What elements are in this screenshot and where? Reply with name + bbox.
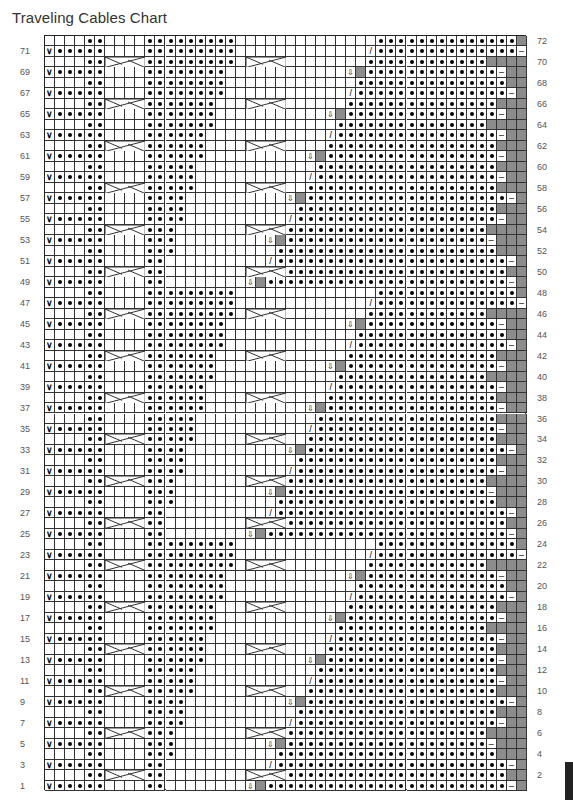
chart-cell (286, 109, 296, 119)
chart-cell (336, 214, 346, 224)
chart-cell (356, 634, 366, 644)
chart-cell (95, 361, 105, 371)
chart-cell (236, 330, 246, 340)
chart-cell (186, 141, 196, 151)
chart-cell (407, 309, 417, 319)
chart-cell (366, 781, 376, 791)
chart-cell (115, 120, 125, 130)
chart-cell (336, 487, 346, 497)
chart-cell (226, 319, 236, 329)
chart-cell (356, 393, 366, 403)
chart-cell (447, 256, 457, 266)
chart-cell (336, 781, 346, 791)
chart-cell (467, 466, 477, 476)
chart-cell (105, 476, 115, 486)
chart-cell (176, 372, 186, 382)
chart-cell (95, 634, 105, 644)
chart-cell (145, 46, 155, 56)
chart-cell (346, 130, 356, 140)
chart-cell (95, 508, 105, 518)
chart-cell (105, 288, 115, 298)
chart-cell (65, 581, 75, 591)
chart-cell (155, 749, 165, 759)
chart-cell (427, 466, 437, 476)
chart-cell (326, 518, 336, 528)
chart-cell (176, 476, 186, 486)
chart-cell (45, 214, 55, 224)
chart-cell (166, 214, 176, 224)
chart-cell (55, 319, 65, 329)
chart-cell (115, 204, 125, 214)
chart-cell (396, 382, 406, 392)
chart-cell (447, 78, 457, 88)
chart-cell (145, 455, 155, 465)
chart-cell (266, 581, 276, 591)
chart-cell (216, 539, 226, 549)
chart-cell (296, 665, 306, 675)
chart-cell (356, 351, 366, 361)
chart-cell (186, 414, 196, 424)
chart-cell (346, 560, 356, 570)
chart-cell (246, 361, 256, 371)
chart-cell (346, 141, 356, 151)
chart-cell (246, 256, 256, 266)
chart-cell (135, 602, 145, 612)
chart-cell (55, 298, 65, 308)
chart-cell (276, 539, 286, 549)
chart-cell (196, 560, 206, 570)
chart-cell (85, 728, 95, 738)
chart-cell (236, 718, 246, 728)
chart-cell (276, 67, 286, 77)
chart-cell (487, 655, 497, 665)
chart-cell (226, 487, 236, 497)
chart-cell (477, 214, 487, 224)
chart-cell (437, 581, 447, 591)
chart-cell (115, 193, 125, 203)
chart-cell (366, 130, 376, 140)
chart-cell (376, 88, 386, 98)
chart-cell (417, 204, 427, 214)
chart-cell (236, 466, 246, 476)
chart-cell (316, 361, 326, 371)
chart-cell (356, 455, 366, 465)
chart-cell (125, 298, 135, 308)
chart-cell (316, 393, 326, 403)
chart-cell (477, 476, 487, 486)
chart-cell (497, 518, 507, 528)
chart-cell (386, 697, 396, 707)
chart-cell (65, 340, 75, 350)
row-number-right: 66 (537, 99, 547, 109)
chart-cell (467, 644, 477, 654)
chart-cell (55, 151, 65, 161)
chart-cell (206, 256, 216, 266)
chart-cell (396, 393, 406, 403)
chart-cell (186, 434, 196, 444)
chart-cell (135, 88, 145, 98)
row-number-left: 19 (20, 592, 30, 602)
chart-cell (336, 602, 346, 612)
chart-cell (176, 487, 186, 497)
chart-cell (246, 487, 256, 497)
chart-cell (135, 707, 145, 717)
chart-cell (55, 267, 65, 277)
chart-cell (55, 183, 65, 193)
chart-cell (196, 57, 206, 67)
chart-cell (457, 739, 467, 749)
chart-cell (477, 665, 487, 675)
chart-cell (427, 288, 437, 298)
row-number-left: 53 (20, 235, 30, 245)
chart-cell (125, 770, 135, 780)
chart-cell (85, 141, 95, 151)
chart-cell (236, 99, 246, 109)
chart-cell (155, 361, 165, 371)
chart-cell (65, 644, 75, 654)
chart-cell (95, 592, 105, 602)
chart-cell (55, 476, 65, 486)
chart-cell (236, 151, 246, 161)
chart-cell (236, 382, 246, 392)
chart-cell (336, 382, 346, 392)
chart-cell (166, 739, 176, 749)
chart-cell (457, 644, 467, 654)
chart-cell (266, 424, 276, 434)
chart-cell (206, 88, 216, 98)
